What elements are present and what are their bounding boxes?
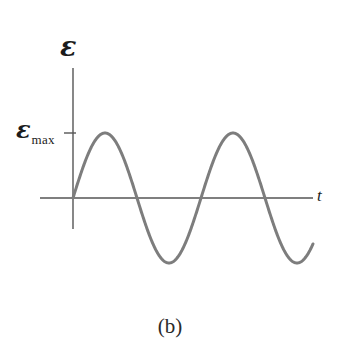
figure-caption: (b)	[0, 314, 340, 339]
y-axis-label: ε	[60, 33, 76, 60]
x-axis-label: t	[317, 187, 322, 204]
emax-tick-label: εmax	[16, 118, 55, 142]
figure-container: ε εmax t (b)	[0, 0, 340, 352]
emax-epsilon-glyph: ε	[16, 118, 31, 142]
plot-area	[0, 0, 340, 352]
emax-subscript: max	[32, 133, 55, 146]
